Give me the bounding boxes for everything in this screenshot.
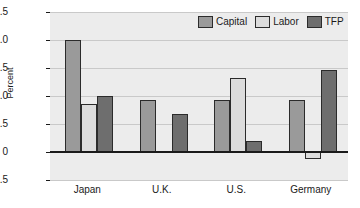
y-axis-tick-label: 1.5 <box>0 63 8 73</box>
legend-swatch-labor-icon <box>255 16 270 28</box>
legend-swatch-capital-icon <box>198 16 213 28</box>
y-axis-tick-label: -0.5 <box>0 175 8 185</box>
y-axis-tick-label: 2.5 <box>0 7 8 17</box>
gridline <box>50 96 348 97</box>
y-axis-tick-label: 0.5 <box>0 119 8 129</box>
bar-germany-capital <box>289 100 305 152</box>
y-axis-tick-label: 0 <box>0 147 8 157</box>
bar-us-capital <box>214 100 230 152</box>
gridline <box>50 68 348 69</box>
chart-legend: CapitalLaborTFP <box>198 16 348 28</box>
bar-uk-tfp <box>172 114 188 152</box>
legend-item-tfp[interactable]: TFP <box>307 16 344 28</box>
gridline <box>50 180 348 181</box>
bar-japan-tfp <box>97 96 113 152</box>
bar-uk-capital <box>140 100 156 152</box>
legend-item-labor[interactable]: Labor <box>255 16 299 28</box>
legend-swatch-tfp-icon <box>307 16 322 28</box>
plot-area <box>50 12 348 180</box>
bar-japan-labor <box>81 104 97 152</box>
zero-baseline <box>50 151 348 153</box>
y-axis-title: Percent <box>5 43 15 123</box>
bar-germany-tfp <box>321 70 337 152</box>
x-axis-label-germany: Germany <box>266 184 356 195</box>
legend-label: Labor <box>273 16 299 28</box>
bar-japan-capital <box>65 40 81 152</box>
legend-label: Capital <box>216 16 247 28</box>
gridline <box>50 40 348 41</box>
legend-item-capital[interactable]: Capital <box>198 16 247 28</box>
bar-chart-figure: Percent 2.52.01.51.00.50-0.5 JapanU.K.U.… <box>0 0 360 208</box>
y-axis-tick-label: 1.0 <box>0 91 8 101</box>
bar-germany-labor <box>305 152 321 159</box>
legend-label: TFP <box>325 16 344 28</box>
y-axis-tick-label: 2.0 <box>0 35 8 45</box>
bar-us-labor <box>230 78 246 152</box>
gridline <box>50 12 348 13</box>
